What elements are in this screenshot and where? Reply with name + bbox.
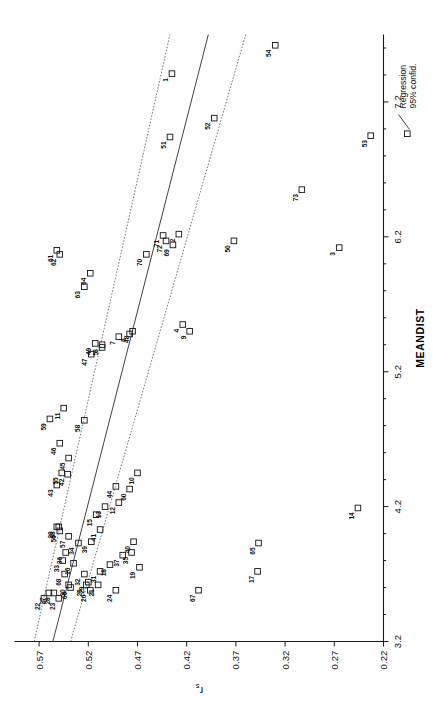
data-point-marker[interactable]: [58, 470, 64, 476]
data-point-marker[interactable]: [81, 571, 87, 577]
data-point-marker[interactable]: [107, 561, 113, 567]
data-point-label: 39: [81, 546, 88, 553]
data-point-label: 53: [360, 140, 367, 147]
data-point-marker[interactable]: [62, 549, 68, 555]
data-point-label: 48: [122, 335, 129, 342]
data-point-marker[interactable]: [56, 440, 62, 446]
data-point-label: 4: [172, 329, 179, 333]
x-tick-label: 3.2: [391, 634, 402, 648]
legend-line-icon: [398, 114, 409, 129]
data-point-label: 7: [108, 341, 115, 345]
data-point-label: 59: [39, 423, 46, 430]
data-point-label: 64: [80, 277, 87, 284]
data-point-marker[interactable]: [67, 584, 73, 590]
data-point-label: 16: [63, 567, 70, 574]
data-point-marker[interactable]: [92, 340, 98, 346]
data-point-label: 1: [161, 78, 168, 82]
data-point-marker[interactable]: [47, 416, 53, 422]
data-point-marker[interactable]: [56, 528, 62, 534]
data-point-label: 41: [90, 534, 97, 541]
confidence-band-upper: [34, 34, 170, 641]
data-point-label: 43: [46, 489, 53, 496]
data-point-marker[interactable]: [102, 503, 108, 509]
data-point-marker[interactable]: [367, 132, 373, 138]
y-tick-label: 0.27: [328, 650, 339, 669]
data-point-label: 54: [265, 49, 272, 56]
data-point-label: 34: [68, 547, 75, 554]
data-point-label: 73: [291, 194, 298, 201]
data-point-label: 13: [95, 511, 102, 518]
data-point-marker[interactable]: [126, 486, 132, 492]
data-point-marker[interactable]: [336, 244, 342, 250]
data-point-label: 44: [105, 490, 112, 497]
data-point-label: 29: [78, 586, 85, 593]
data-point-marker[interactable]: [169, 70, 175, 76]
data-point-label: 12: [108, 507, 115, 514]
data-point-marker[interactable]: [179, 321, 185, 327]
data-point-marker[interactable]: [170, 242, 176, 248]
y-axis-title: rs: [195, 681, 202, 696]
data-point-label: 35: [121, 556, 128, 563]
data-point-marker[interactable]: [51, 590, 57, 596]
data-point-marker[interactable]: [272, 42, 278, 48]
data-point-label: 31: [90, 575, 97, 582]
data-point-marker[interactable]: [355, 505, 361, 511]
data-point-marker[interactable]: [113, 483, 119, 489]
data-point-marker[interactable]: [87, 270, 93, 276]
data-point-label: 67: [188, 594, 195, 601]
legend-marker-icon: [404, 130, 410, 136]
figure-stage: 3.24.25.26.27.20.220.270.320.370.420.470…: [0, 0, 439, 703]
data-point-marker[interactable]: [136, 564, 142, 570]
data-point-marker[interactable]: [163, 238, 169, 244]
data-point-marker[interactable]: [176, 231, 182, 237]
data-point-marker[interactable]: [160, 232, 166, 238]
y-tick-label: 0.47: [132, 650, 143, 669]
data-point-marker[interactable]: [113, 587, 119, 593]
data-point-label: 51: [159, 141, 166, 148]
confidence-band-lower: [70, 34, 245, 641]
data-point-label: 32: [74, 578, 81, 585]
data-point-marker[interactable]: [195, 587, 201, 593]
data-point-label: 14: [347, 512, 354, 519]
data-point-marker[interactable]: [211, 115, 217, 121]
data-point-marker[interactable]: [299, 186, 305, 192]
data-point-marker[interactable]: [46, 590, 52, 596]
data-point-label: 50: [223, 245, 230, 252]
data-point-marker[interactable]: [167, 134, 173, 140]
plot-canvas: 3.24.25.26.27.20.220.270.320.370.420.470…: [0, 0, 439, 703]
rotated-figure-wrapper: 3.24.25.26.27.20.220.270.320.370.420.470…: [0, 0, 439, 703]
data-point-marker[interactable]: [134, 470, 140, 476]
data-point-label: 58: [74, 424, 81, 431]
y-tick-label: 0.42: [181, 650, 192, 669]
data-point-label: 37: [112, 559, 119, 566]
data-point-marker[interactable]: [60, 405, 66, 411]
data-point-marker[interactable]: [255, 540, 261, 546]
data-point-label: 72: [156, 245, 163, 252]
data-point-label: 17: [247, 575, 254, 582]
data-point-marker[interactable]: [97, 526, 103, 532]
data-point-marker[interactable]: [65, 533, 71, 539]
data-point-label: 8: [92, 349, 99, 353]
data-point-marker[interactable]: [143, 251, 149, 257]
data-point-label: 69: [162, 249, 169, 256]
data-point-marker[interactable]: [231, 238, 237, 244]
data-point-label: 24: [105, 594, 112, 601]
data-point-marker[interactable]: [65, 455, 71, 461]
data-point-marker[interactable]: [130, 538, 136, 544]
data-point-label: 70: [136, 258, 143, 265]
data-point-marker[interactable]: [186, 328, 192, 334]
data-point-label: 63: [74, 291, 81, 298]
data-point-marker[interactable]: [56, 251, 62, 257]
data-point-label: 3: [329, 252, 336, 256]
data-point-label: 46: [49, 447, 56, 454]
x-tick-label: 6.2: [391, 230, 402, 244]
data-point-label: 49: [85, 347, 92, 354]
data-point-marker[interactable]: [254, 568, 260, 574]
data-point-label: 68: [54, 578, 61, 585]
data-point-label: 57: [58, 540, 65, 547]
data-point-label: 56: [49, 535, 56, 542]
y-tick-label: 0.57: [33, 650, 44, 669]
data-point-marker[interactable]: [64, 471, 70, 477]
data-point-label: 65: [248, 547, 255, 554]
x-tick-label: 5.2: [391, 364, 402, 378]
